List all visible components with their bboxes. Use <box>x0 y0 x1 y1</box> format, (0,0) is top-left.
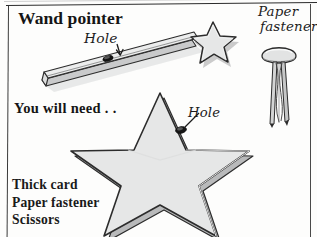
wand-stick <box>42 32 204 92</box>
callout-paper-fastener-line1: Paper <box>258 4 317 19</box>
callout-hole-star: Hole <box>188 105 220 120</box>
materials-list: Thick card Paper fastener Scissors <box>12 176 99 229</box>
callout-hole-wand: Hole <box>84 30 118 46</box>
callout-paper-fastener: Paper fastener <box>258 4 317 34</box>
materials-item: Paper fastener <box>12 194 99 212</box>
page-title: Wand pointer <box>18 8 123 29</box>
you-will-need-heading: You will need . . <box>14 100 117 117</box>
materials-item: Thick card <box>12 176 99 194</box>
wand-star-tip <box>191 22 239 68</box>
callout-paper-fastener-line2: fastener <box>260 19 317 34</box>
materials-item: Scissors <box>12 211 99 229</box>
illustration-page: Wand pointer Hole Hole Paper fastener Yo… <box>0 0 317 237</box>
paper-fastener <box>262 48 296 128</box>
